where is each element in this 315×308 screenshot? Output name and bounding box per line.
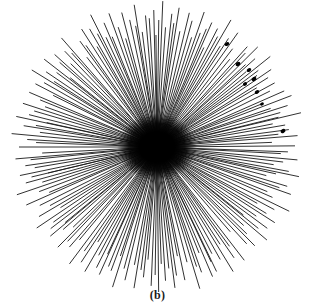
figure-caption: (b): [0, 288, 315, 302]
figure-container: (b): [0, 0, 315, 308]
dense-core-group: [117, 113, 197, 181]
radial-burst-chart: [0, 0, 315, 308]
dense-core-blob: [117, 113, 197, 181]
